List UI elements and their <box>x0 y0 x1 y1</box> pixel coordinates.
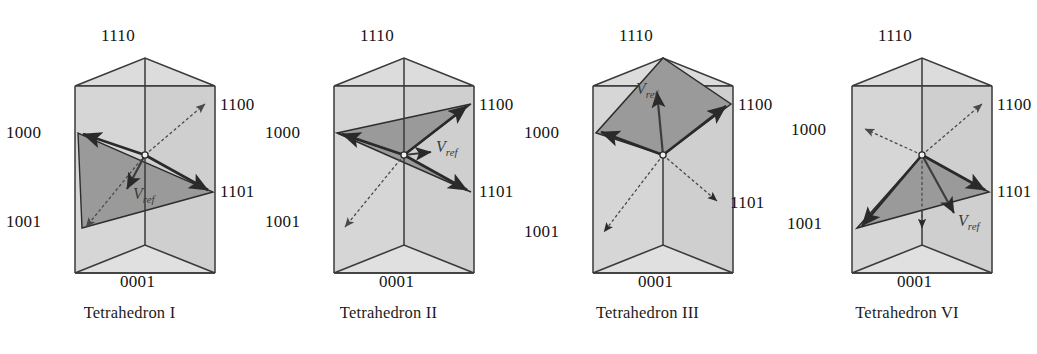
vertex-label-1001: 1001 <box>6 212 41 232</box>
vertex-label-1110: 1110 <box>101 26 135 46</box>
figure-tetrahedron-1: 1110 1100 1101 1000 1001 0001 Vref Tetra… <box>0 0 259 354</box>
vertex-label-1101: 1101 <box>479 182 514 202</box>
prism-left-body <box>334 86 404 273</box>
vref-subscript: ref <box>143 193 155 205</box>
vertex-label-1101: 1101 <box>997 182 1032 202</box>
origin-node <box>660 152 666 158</box>
origin-node <box>401 152 407 158</box>
vref-symbol: V <box>133 185 143 202</box>
vertex-label-1101: 1101 <box>730 193 765 213</box>
vertex-label-1100: 1100 <box>738 95 773 115</box>
vertex-label-1110: 1110 <box>878 26 912 46</box>
vertex-label-1100: 1100 <box>220 95 255 115</box>
vref-subscript: ref <box>446 146 458 158</box>
vref-label: Vref <box>636 80 658 100</box>
vref-symbol: V <box>636 80 646 97</box>
vertex-label-1000: 1000 <box>791 120 826 140</box>
vertex-label-1100: 1100 <box>479 95 514 115</box>
vertex-label-1001: 1001 <box>524 222 559 242</box>
vertex-label-1000: 1000 <box>6 123 41 143</box>
figure-caption: Tetrahedron I <box>0 303 259 323</box>
vertex-label-1001: 1001 <box>265 212 300 232</box>
figure-caption: Tetrahedron III <box>518 303 777 323</box>
vertex-label-0001: 0001 <box>379 272 414 292</box>
vertex-label-0001: 0001 <box>897 272 932 292</box>
tetrahedron-figure-row: 1110 1100 1101 1000 1001 0001 Vref Tetra… <box>0 0 1037 354</box>
figure-tetrahedron-2: 1110 1100 1101 1000 1001 0001 Vref Tetra… <box>259 0 518 354</box>
vertex-label-1001: 1001 <box>787 214 822 234</box>
vref-subscript: ref <box>646 88 658 100</box>
vertex-label-0001: 0001 <box>638 272 673 292</box>
vertex-label-1110: 1110 <box>360 26 394 46</box>
origin-node <box>919 152 925 158</box>
vertex-label-1000: 1000 <box>524 123 559 143</box>
vertex-label-0001: 0001 <box>120 272 155 292</box>
vertex-label-1100: 1100 <box>997 95 1032 115</box>
vref-subscript: ref <box>968 220 980 232</box>
vref-label: Vref <box>436 138 458 158</box>
vref-symbol: V <box>958 212 968 229</box>
vertex-label-1101: 1101 <box>220 182 255 202</box>
vref-symbol: V <box>436 138 446 155</box>
origin-node <box>142 152 148 158</box>
figure-caption: Tetrahedron II <box>259 303 518 323</box>
vref-label: Vref <box>133 185 155 205</box>
figure-tetrahedron-3: 1110 1100 1101 1000 1001 0001 Vref Tetra… <box>518 0 777 354</box>
figure-caption: Tetrahedron VI <box>777 303 1037 323</box>
figure-tetrahedron-4: 1110 1100 1101 1000 1001 0001 Vref Tetra… <box>777 0 1037 354</box>
vertex-label-1000: 1000 <box>265 123 300 143</box>
vref-label: Vref <box>958 212 980 232</box>
vertex-label-1110: 1110 <box>619 26 653 46</box>
